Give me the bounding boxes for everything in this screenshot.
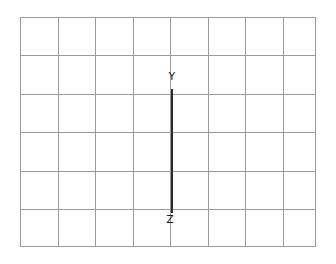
point-label-y: Y <box>169 71 176 82</box>
point-label-z: Z <box>166 214 174 225</box>
grid-line-horizontal <box>20 17 316 18</box>
grid-line-horizontal <box>20 171 316 172</box>
figure-canvas: Y Z <box>0 0 336 264</box>
grid-line-horizontal <box>20 94 316 95</box>
grid-line-horizontal <box>20 209 316 210</box>
grid-line-horizontal <box>20 132 316 133</box>
segment-yz <box>171 89 173 213</box>
grid-line-horizontal <box>20 55 316 56</box>
grid-line-horizontal <box>20 246 316 247</box>
